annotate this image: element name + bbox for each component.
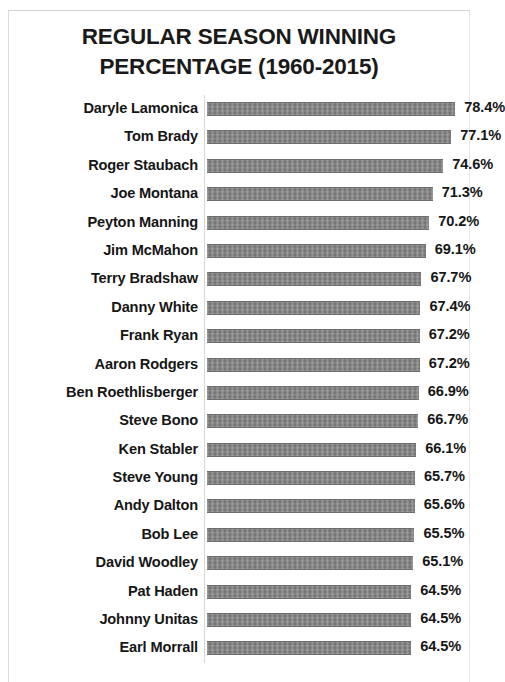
bar-track <box>207 159 473 173</box>
bar-category-label: Danny White <box>10 299 198 315</box>
bar-value-label: 65.7% <box>424 468 465 484</box>
bar-track <box>207 102 473 116</box>
bar-value-label: 64.5% <box>420 610 461 626</box>
bar-track <box>207 216 473 230</box>
chart-title-line-2: PERCENTAGE (1960-2015) <box>14 52 464 82</box>
bar-value-label: 67.4% <box>429 298 470 314</box>
bar-value-label: 70.2% <box>438 213 479 229</box>
bar-row: Terry Bradshaw67.7% <box>0 265 478 293</box>
bar-category-label: Andy Dalton <box>10 497 198 513</box>
bar <box>207 528 414 542</box>
bar-row: Johnny Unitas64.5% <box>0 606 478 634</box>
bar-row: Ken Stabler66.1% <box>0 436 478 464</box>
bar-value-label: 77.1% <box>460 127 501 143</box>
bar-row: Andy Dalton65.6% <box>0 492 478 520</box>
bar <box>207 102 455 116</box>
bar-category-label: Johnny Unitas <box>10 611 198 627</box>
bar-track <box>207 130 473 144</box>
bar <box>207 358 420 372</box>
bar <box>207 301 420 315</box>
bar-value-label: 66.1% <box>425 440 466 456</box>
bar <box>207 641 411 655</box>
bar-value-label: 64.5% <box>420 638 461 654</box>
bar-category-label: Bob Lee <box>10 526 198 542</box>
bar-row: Ben Roethlisberger66.9% <box>0 379 478 407</box>
bar-category-label: Aaron Rodgers <box>10 356 198 372</box>
bar-row: Pat Haden64.5% <box>0 578 478 606</box>
bar <box>207 471 415 485</box>
bar <box>207 386 419 400</box>
bar <box>207 414 418 428</box>
bar-value-label: 65.5% <box>423 525 464 541</box>
bar-value-label: 67.2% <box>429 326 470 342</box>
chart-title-line-1: REGULAR SEASON WINNING <box>82 24 396 49</box>
bar-row: Daryle Lamonica78.4% <box>0 95 478 123</box>
bar <box>207 556 413 570</box>
bar <box>207 585 411 599</box>
bar <box>207 244 426 258</box>
plot-area: Daryle Lamonica78.4%Tom Brady77.1%Roger … <box>0 95 478 663</box>
bar-value-label: 65.1% <box>422 553 463 569</box>
bar-track <box>207 187 473 201</box>
bar-row: Jim McMahon69.1% <box>0 237 478 265</box>
bar-row: Earl Morrall64.5% <box>0 634 478 662</box>
bar-category-label: Jim McMahon <box>10 242 198 258</box>
bar <box>207 272 421 286</box>
bar-row: Tom Brady77.1% <box>0 123 478 151</box>
bar-row: Danny White67.4% <box>0 294 478 322</box>
bar-row: Steve Bono66.7% <box>0 407 478 435</box>
bar-row: Frank Ryan67.2% <box>0 322 478 350</box>
bar-value-label: 66.7% <box>427 411 468 427</box>
bar-value-label: 64.5% <box>420 582 461 598</box>
bar <box>207 499 415 513</box>
bar-row: Joe Montana71.3% <box>0 180 478 208</box>
bar-category-label: David Woodley <box>10 554 198 570</box>
bar-value-label: 69.1% <box>435 241 476 257</box>
bar <box>207 613 411 627</box>
bar <box>207 443 416 457</box>
bar <box>207 159 443 173</box>
bar-category-label: Ben Roethlisberger <box>10 384 198 400</box>
bar-category-label: Peyton Manning <box>10 214 198 230</box>
chart-title: REGULAR SEASON WINNING PERCENTAGE (1960-… <box>14 22 464 82</box>
bar-category-label: Terry Bradshaw <box>10 270 198 286</box>
bar <box>207 216 429 230</box>
bar-value-label: 65.6% <box>424 496 465 512</box>
bar-track <box>207 244 473 258</box>
bar-category-label: Roger Staubach <box>10 157 198 173</box>
bar-row: David Woodley65.1% <box>0 549 478 577</box>
bar-category-label: Steve Young <box>10 469 198 485</box>
bar-row: Bob Lee65.5% <box>0 521 478 549</box>
bar-row: Roger Staubach74.6% <box>0 152 478 180</box>
bar-category-label: Pat Haden <box>10 583 198 599</box>
bar <box>207 187 433 201</box>
bar-series: Daryle Lamonica78.4%Tom Brady77.1%Roger … <box>0 95 478 663</box>
bar-value-label: 71.3% <box>442 184 483 200</box>
bar-category-label: Tom Brady <box>10 128 198 144</box>
bar-category-label: Earl Morrall <box>10 639 198 655</box>
bar <box>207 329 420 343</box>
bar-row: Steve Young65.7% <box>0 464 478 492</box>
bar-value-label: 74.6% <box>452 156 493 172</box>
bar-row: Peyton Manning70.2% <box>0 209 478 237</box>
bar-value-label: 67.2% <box>429 355 470 371</box>
bar-value-label: 67.7% <box>430 269 471 285</box>
bar-category-label: Steve Bono <box>10 412 198 428</box>
bar-category-label: Ken Stabler <box>10 441 198 457</box>
bar-value-label: 78.4% <box>464 99 505 115</box>
bar <box>207 130 451 144</box>
bar-value-label: 66.9% <box>428 383 469 399</box>
bar-row: Aaron Rodgers67.2% <box>0 351 478 379</box>
bar-category-label: Joe Montana <box>10 185 198 201</box>
bar-category-label: Frank Ryan <box>10 327 198 343</box>
bar-category-label: Daryle Lamonica <box>10 100 198 116</box>
